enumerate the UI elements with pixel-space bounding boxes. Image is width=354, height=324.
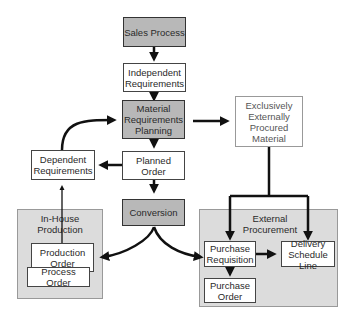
dependent-requirements-node: Dependent Requirements [31,150,95,180]
process-order-node: Process Order [27,267,90,287]
independent-requirements-label: Independent Requirements [125,67,184,89]
exclusively-external-label: Exclusively Externally Procured Material [238,100,300,144]
independent-requirements-node: Independent Requirements [123,63,186,92]
purchase-requisition-label: Purchase Requisition [205,243,255,265]
conversion-node: Conversion [122,199,185,226]
purchase-requisition-node: Purchase Requisition [204,241,256,267]
exclusively-external-node: Exclusively Externally Procured Material [235,96,303,147]
sales-process-label: Sales Process [124,27,185,38]
purchase-order-node: Purchase Order [204,278,256,303]
purchase-order-label: Purchase Order [210,280,250,302]
dependent-requirements-label: Dependent Requirements [33,154,92,176]
delivery-schedule-line-node: Delivery Schedule Line [281,241,335,267]
sales-process-node: Sales Process [123,17,186,47]
planned-order-label: Planned Order [123,155,184,177]
mrp-label: Material Requirements Planning [124,103,183,136]
process-order-label: Process Order [28,266,89,288]
conversion-label: Conversion [129,207,177,218]
planned-order-node: Planned Order [122,151,185,180]
delivery-schedule-line-label: Delivery Schedule Line [282,238,334,271]
mrp-node: Material Requirements Planning [122,100,185,139]
